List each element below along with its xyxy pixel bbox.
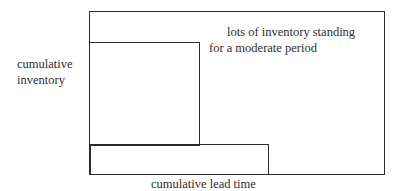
annotation-line1: lots of inventory standing [227,24,355,40]
tall-inventory-block [89,42,200,146]
y-axis-label: cumulative inventory [17,56,73,88]
x-axis-label: cumulative lead time [151,176,256,191]
y-axis-label-line1: cumulative [17,56,73,72]
annotation-line2: for a moderate period [209,40,317,56]
y-axis-label-line2: inventory [17,72,73,88]
wide-lead-time-block [90,144,269,175]
diagram-canvas: cumulative inventory lots of inventory s… [0,0,402,191]
